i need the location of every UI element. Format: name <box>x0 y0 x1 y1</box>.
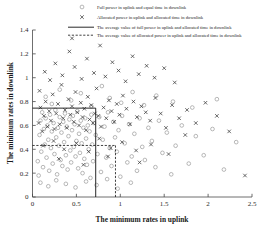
data-point-circle <box>99 170 103 174</box>
data-point-circle <box>161 151 165 155</box>
data-point-circle <box>68 118 72 122</box>
chart-legend: Full power in uplink and equal time in d… <box>68 5 242 38</box>
data-point-circle <box>78 151 82 155</box>
legend-label-full-power: Full power in uplink and equal time in d… <box>97 5 187 10</box>
y-tick-label: 1.2 <box>20 50 29 58</box>
data-point-circle <box>51 162 55 166</box>
data-point-circle <box>171 100 175 104</box>
data-point-cross <box>149 143 153 147</box>
data-point-circle <box>49 146 53 150</box>
data-point-circle <box>105 177 109 181</box>
data-point-circle <box>100 84 104 88</box>
series-full-power-points <box>36 84 238 190</box>
data-point-cross <box>154 96 158 100</box>
data-point-circle <box>101 138 105 142</box>
x-tick-label: 0 <box>31 200 35 208</box>
data-point-cross <box>92 71 96 75</box>
y-tick-label: 1.4 <box>20 26 29 34</box>
data-point-circle <box>70 128 74 132</box>
legend-entry-avg-full-power: The average value of full power in uplin… <box>68 25 232 30</box>
data-point-circle <box>47 169 51 173</box>
data-point-circle <box>68 149 72 153</box>
data-point-cross <box>58 122 62 126</box>
data-point-cross <box>185 108 189 112</box>
data-point-circle <box>55 172 59 176</box>
data-point-cross <box>184 133 188 137</box>
data-point-cross <box>194 121 198 125</box>
data-point-cross <box>53 127 57 131</box>
data-point-circle <box>234 140 238 144</box>
data-point-circle <box>190 106 194 110</box>
data-point-cross <box>148 119 152 123</box>
data-point-circle <box>39 181 43 185</box>
data-point-cross <box>159 112 163 116</box>
x-axis-title: The minimum rates in uplink <box>96 215 190 224</box>
data-point-circle <box>119 101 123 105</box>
data-point-circle <box>76 167 80 171</box>
data-point-circle <box>215 97 219 101</box>
data-point-circle <box>44 95 48 99</box>
data-point-circle <box>53 152 57 156</box>
data-point-cross <box>70 37 74 41</box>
data-point-circle <box>157 119 161 123</box>
data-point-circle <box>82 157 86 161</box>
data-point-circle <box>135 169 139 173</box>
data-point-circle <box>211 127 215 131</box>
data-point-cross <box>82 163 86 167</box>
cross-marker <box>80 15 84 19</box>
data-point-circle <box>37 174 41 178</box>
data-point-circle <box>81 171 85 175</box>
data-point-cross <box>63 108 67 112</box>
data-point-circle <box>54 136 58 140</box>
data-point-circle <box>89 176 93 180</box>
data-point-circle <box>103 125 107 129</box>
data-point-cross <box>73 65 77 69</box>
data-point-circle <box>46 184 50 188</box>
data-point-cross <box>97 137 101 141</box>
data-point-circle <box>165 131 169 135</box>
data-point-circle <box>48 113 52 117</box>
data-point-cross <box>138 161 142 165</box>
data-point-cross <box>60 83 64 87</box>
data-point-cross <box>86 95 90 99</box>
data-point-cross <box>144 111 148 115</box>
data-point-circle <box>56 126 60 130</box>
circle-marker <box>80 5 84 9</box>
data-point-circle <box>64 153 68 157</box>
data-point-circle <box>54 178 58 182</box>
data-point-circle <box>96 152 100 156</box>
data-point-circle <box>88 130 92 134</box>
data-point-circle <box>154 165 158 169</box>
data-point-cross <box>88 118 92 122</box>
x-tick-label: 2.5 <box>248 200 257 208</box>
data-point-cross <box>173 81 177 85</box>
data-point-circle <box>39 119 43 123</box>
data-point-cross <box>54 112 58 116</box>
legend-entry-full-power: Full power in uplink and equal time in d… <box>80 5 187 10</box>
data-point-cross <box>167 152 171 156</box>
data-point-circle <box>79 119 83 123</box>
data-point-circle <box>113 136 117 140</box>
data-point-cross <box>49 119 53 123</box>
data-point-cross <box>61 117 65 121</box>
data-point-cross <box>215 114 219 118</box>
data-point-circle <box>69 161 73 165</box>
data-point-cross <box>145 64 149 68</box>
data-point-circle <box>116 187 120 191</box>
data-point-circle <box>180 124 184 128</box>
data-point-circle <box>45 156 49 160</box>
data-point-cross <box>153 76 157 80</box>
data-point-cross <box>111 60 115 64</box>
data-point-circle <box>84 137 88 141</box>
data-point-circle <box>140 145 144 149</box>
data-point-cross <box>52 139 56 143</box>
data-point-circle <box>53 108 57 112</box>
data-point-circle <box>147 126 151 130</box>
data-point-circle <box>106 110 110 114</box>
x-tick-label: 1.5 <box>160 200 169 208</box>
data-point-cross <box>39 106 43 110</box>
data-point-circle <box>143 158 147 162</box>
data-point-cross <box>83 107 87 111</box>
data-point-cross <box>68 50 72 54</box>
data-point-circle <box>79 91 83 95</box>
